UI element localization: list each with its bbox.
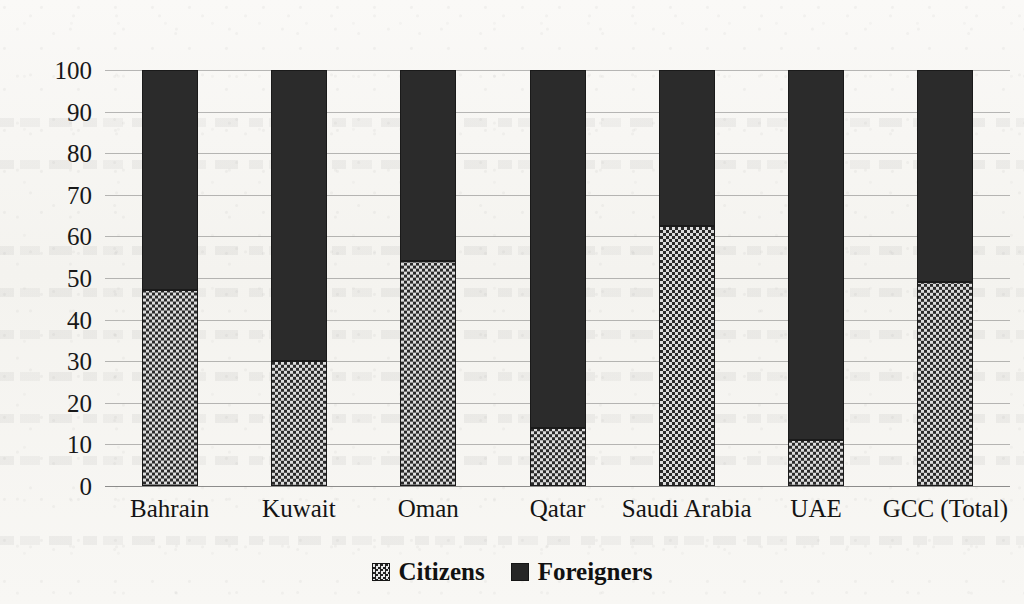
x-label-qatar: Qatar bbox=[492, 494, 624, 523]
x-label-saudi-arabia: Saudi Arabia bbox=[621, 494, 753, 523]
x-label-kuwait: Kuwait bbox=[233, 494, 365, 523]
y-tick-label-90: 90 bbox=[12, 99, 92, 124]
y-tick-label-20: 20 bbox=[12, 390, 92, 415]
bar-segment-citizens[interactable] bbox=[788, 440, 844, 486]
bar-segment-foreigners[interactable] bbox=[659, 70, 715, 226]
bar-segment-foreigners[interactable] bbox=[788, 70, 844, 440]
y-tick-label-0: 0 bbox=[12, 474, 92, 499]
x-label-gcc-total: GCC (Total) bbox=[879, 494, 1011, 523]
y-tick-label-100: 100 bbox=[12, 58, 92, 83]
legend-item-citizens[interactable]: Citizens bbox=[372, 558, 485, 586]
y-tick-label-30: 30 bbox=[12, 349, 92, 374]
chart-page: 1009080706050403020100 BahrainKuwaitOman… bbox=[0, 0, 1024, 604]
bar-segment-citizens[interactable] bbox=[917, 282, 973, 486]
bar-segment-citizens[interactable] bbox=[659, 226, 715, 486]
bar-segment-foreigners[interactable] bbox=[400, 70, 456, 261]
plot-area bbox=[105, 70, 1010, 486]
x-label-uae: UAE bbox=[750, 494, 882, 523]
legend-item-foreigners[interactable]: Foreigners bbox=[511, 558, 653, 586]
bar-saudi-arabia[interactable] bbox=[659, 70, 715, 486]
y-tick-label-60: 60 bbox=[12, 224, 92, 249]
y-tick-label-70: 70 bbox=[12, 182, 92, 207]
y-tick-label-10: 10 bbox=[12, 432, 92, 457]
bar-segment-citizens[interactable] bbox=[400, 261, 456, 486]
y-tick-label-40: 40 bbox=[12, 307, 92, 332]
x-label-bahrain: Bahrain bbox=[104, 494, 236, 523]
bar-segment-foreigners[interactable] bbox=[271, 70, 327, 361]
bar-gcc-total[interactable] bbox=[917, 70, 973, 486]
bar-segment-citizens[interactable] bbox=[271, 361, 327, 486]
bar-segment-foreigners[interactable] bbox=[917, 70, 973, 282]
chart-legend: CitizensForeigners bbox=[0, 558, 1024, 586]
y-tick-label-50: 50 bbox=[12, 266, 92, 291]
bar-qatar[interactable] bbox=[530, 70, 586, 486]
filled-square-icon bbox=[511, 563, 529, 581]
bar-oman[interactable] bbox=[400, 70, 456, 486]
y-tick-label-80: 80 bbox=[12, 141, 92, 166]
gridline-0 bbox=[105, 486, 1010, 487]
x-label-oman: Oman bbox=[362, 494, 494, 523]
bar-segment-foreigners[interactable] bbox=[530, 70, 586, 428]
legend-label: Foreigners bbox=[538, 558, 653, 586]
bar-segment-citizens[interactable] bbox=[142, 290, 198, 486]
bar-uae[interactable] bbox=[788, 70, 844, 486]
bar-segment-foreigners[interactable] bbox=[142, 70, 198, 290]
bar-kuwait[interactable] bbox=[271, 70, 327, 486]
legend-label: Citizens bbox=[399, 558, 485, 586]
page-bleed-texture bbox=[0, 536, 1024, 545]
bar-segment-citizens[interactable] bbox=[530, 428, 586, 486]
bar-bahrain[interactable] bbox=[142, 70, 198, 486]
checkered-square-icon bbox=[372, 563, 390, 581]
